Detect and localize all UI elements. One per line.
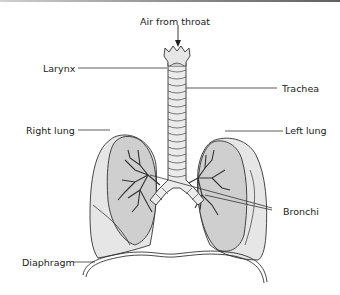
label-diaphragm: Diaphragm [22, 257, 75, 268]
larynx-shape [164, 46, 190, 66]
air-arrow-icon [175, 25, 181, 47]
right-lung-shape [90, 135, 157, 258]
label-left-lung: Left lung [285, 125, 327, 136]
respiratory-system-diagram [0, 0, 340, 295]
label-bronchi: Bronchi [283, 206, 319, 217]
label-larynx: Larynx [43, 63, 75, 74]
left-lung-shape [198, 138, 267, 260]
label-trachea: Trachea [282, 83, 319, 94]
label-right-lung: Right lung [26, 125, 75, 136]
label-air-from-throat: Air from throat [140, 16, 210, 27]
